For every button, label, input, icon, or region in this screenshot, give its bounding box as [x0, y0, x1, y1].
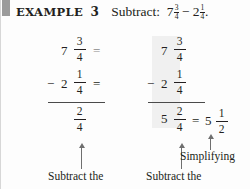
right-row1-whole: 7 — [161, 43, 168, 59]
simplified-numerator: 1 — [215, 106, 228, 121]
caption-middle: Subtract the — [146, 170, 201, 182]
subtraction-bar-left — [48, 102, 105, 103]
example-header: EXAMPLE 3 Subtract: 734−214. — [16, 4, 208, 21]
right-result-denominator: 4 — [173, 120, 186, 135]
row1-equals: = — [93, 43, 100, 59]
minuend-fraction: 34 — [174, 4, 179, 21]
textbook-example-page: EXAMPLE 3 Subtract: 734−214. 7 3 4 = − 2… — [0, 0, 250, 189]
subtrahend-whole: 2 — [193, 4, 200, 19]
right-row2-operator: − — [147, 76, 154, 92]
right-row2-denominator: 4 — [173, 83, 186, 98]
right-result-numerator: 2 — [173, 104, 186, 119]
arrow-simplify-annotation-icon — [206, 134, 215, 150]
right-row2-fraction: 1 4 — [173, 67, 186, 98]
problem-operator: − — [182, 4, 190, 19]
problem-subtrahend: 214 — [193, 4, 205, 21]
right-row1-denominator: 4 — [173, 50, 186, 65]
row1-denominator: 4 — [73, 50, 86, 65]
row2-whole: 2 — [61, 76, 68, 92]
subtraction-bar-right — [148, 102, 205, 103]
row2-numerator: 1 — [73, 67, 86, 82]
result-denominator: 4 — [73, 120, 86, 135]
caption-left: Subtract the — [48, 170, 103, 182]
simplified-fraction: 1 2 — [215, 106, 228, 137]
simplified-denominator: 2 — [215, 122, 228, 137]
right-result-fraction: 2 4 — [173, 104, 186, 135]
arrow-left-shaft — [81, 148, 82, 169]
row2-fraction: 1 4 — [73, 67, 86, 98]
minuend-denominator: 4 — [174, 13, 179, 21]
result-fraction: 2 4 — [73, 104, 86, 135]
right-result-equals: = — [192, 113, 199, 129]
right-result-whole: 5 — [161, 111, 168, 127]
example-marker-icon — [2, 0, 10, 16]
caption-simplify: Simplifying — [180, 150, 235, 162]
row1-fraction: 3 4 — [73, 34, 86, 65]
arrow-left-annotation-icon — [77, 143, 86, 169]
example-prompt: Subtract: 734−214. — [111, 4, 208, 19]
minuend-whole: 7 — [167, 4, 174, 19]
right-row2-numerator: 1 — [173, 67, 186, 82]
result-numerator: 2 — [73, 104, 86, 119]
row1-whole: 7 — [61, 43, 68, 59]
row2-equals: = — [93, 76, 100, 92]
prompt-lead-text: Subtract: — [111, 4, 160, 19]
arrow-simplify-shaft — [210, 139, 211, 150]
right-row1-numerator: 3 — [173, 34, 186, 49]
example-label: EXAMPLE — [16, 5, 83, 19]
page-left-rule — [0, 0, 1, 189]
problem-minuend: 734 — [163, 4, 179, 21]
right-row1-fraction: 3 4 — [173, 34, 186, 65]
example-number: 3 — [91, 5, 99, 19]
right-row2-whole: 2 — [161, 76, 168, 92]
simplified-whole: 5 — [205, 113, 212, 129]
row2-denominator: 4 — [73, 83, 86, 98]
prompt-terminator: . — [205, 4, 208, 19]
row2-operator: − — [47, 76, 54, 92]
row1-numerator: 3 — [73, 34, 86, 49]
